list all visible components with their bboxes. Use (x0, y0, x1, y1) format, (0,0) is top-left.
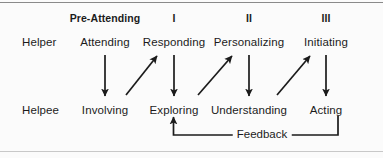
feedback-label: Feedback (233, 128, 292, 141)
arrow-layer (0, 0, 383, 158)
feedback-path-left (174, 117, 237, 135)
arrow-exploring-to-personalizing (198, 56, 232, 95)
helping-model-diagram: Pre-Attending I II III Helper Attending … (0, 0, 383, 158)
arrow-understanding-to-initiating (277, 56, 310, 95)
feedback-path-right (288, 116, 338, 135)
arrow-involving-to-responding (126, 56, 157, 95)
